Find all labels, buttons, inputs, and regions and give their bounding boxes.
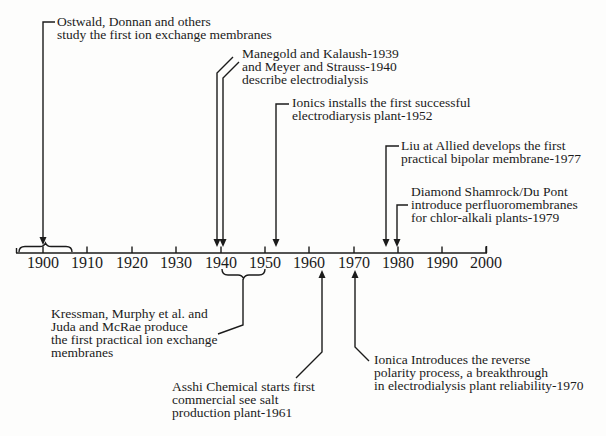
connector-line [276, 104, 289, 240]
connector-line [296, 277, 322, 378]
axis-year-label-1910: 1910 [64, 255, 110, 271]
axis-year-label-1950: 1950 [242, 255, 288, 271]
annotation-line: in electrodialysis plant reliability-197… [374, 379, 584, 392]
annotation-line: describe electrodialysis [242, 73, 399, 86]
connector-line [218, 279, 243, 334]
connector-asahi [296, 270, 326, 378]
up-arrow-icon [352, 270, 359, 278]
connector-manegold [214, 57, 240, 247]
connector-line [397, 205, 408, 240]
annotation-diamond: Diamond Shamrock/Du Pont introduce perfl… [411, 185, 578, 224]
down-arrow-icon [383, 239, 390, 247]
down-arrow-icon [214, 239, 221, 247]
annotation-ionics: Ionics installs the first successful ele… [292, 96, 470, 122]
connector-line [43, 22, 55, 238]
connector-ionics [273, 104, 290, 247]
brace-1900s-icon [19, 243, 72, 252]
connector-line [355, 277, 369, 361]
annotation-line: electrodiarysis plant-1952 [292, 109, 470, 122]
annotation-ionica: Ionica Introduces the reverse polarity p… [374, 353, 584, 392]
annotation-line: for chlor-alkali plants-1979 [411, 211, 578, 224]
down-arrow-icon [394, 239, 401, 247]
annotation-asahi: Asshi Chemical starts first commercial s… [172, 380, 315, 419]
annotation-manegold: Manegold and Kalaush-1939 and Meyer and … [242, 47, 399, 86]
annotation-line: production plant-1961 [172, 406, 315, 419]
axis-year-label-1980: 1980 [375, 255, 421, 271]
connector-ostwald [19, 22, 72, 252]
annotation-kressman: Kressman, Murphy et al. and Juda and McR… [51, 307, 217, 359]
annotation-line: practical bipolar membrane-1977 [401, 152, 581, 165]
annotation-liu: Liu at Allied develops the first practic… [401, 139, 581, 165]
timeline-figure: 1900 1910 1920 1930 1940 1950 1960 1970 … [0, 0, 606, 436]
timeline-axis [16, 246, 487, 253]
connector-line [217, 57, 233, 240]
axis-year-label-1990: 1990 [419, 255, 465, 271]
annotation-line: study the first ion exchange membranes [57, 28, 272, 41]
axis-year-label-2000: 2000 [463, 255, 509, 271]
annotation-ostwald: Ostwald, Donnan and others study the fir… [57, 15, 272, 41]
connector-kressman [218, 269, 265, 334]
axis-year-label-1960: 1960 [286, 255, 332, 271]
axis-ticks [43, 247, 486, 254]
down-arrow-icon [220, 239, 227, 247]
annotation-line: membranes [51, 346, 217, 359]
axis-year-label-1930: 1930 [153, 255, 199, 271]
connector-diamond [394, 205, 409, 247]
axis-year-label-1920: 1920 [109, 255, 155, 271]
up-arrow-icon [319, 270, 326, 278]
axis-year-label-1900: 1900 [20, 255, 66, 271]
connector-line [223, 62, 239, 240]
connector-ionica [352, 270, 370, 361]
down-arrow-icon [273, 239, 280, 247]
axis-year-label-1970: 1970 [331, 255, 377, 271]
axis-year-label-1940: 1940 [198, 255, 244, 271]
